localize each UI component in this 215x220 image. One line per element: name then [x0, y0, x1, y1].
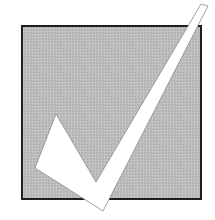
checkbox-graphic — [0, 0, 215, 220]
checkbox-checked-icon — [0, 0, 215, 220]
